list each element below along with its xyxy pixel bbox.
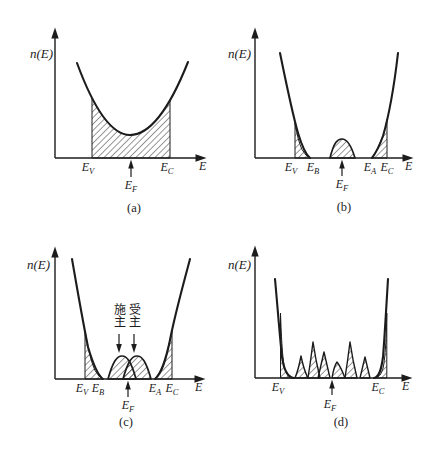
gap-state-spike [308,342,320,378]
tick-label-ec: EC [165,381,178,397]
panel-a: n(E) EV EC E EF (a) [0,0,220,227]
fermi-label: EF [324,397,337,413]
x-axis-label: E [195,380,202,395]
fermi-arrow-head-icon [329,380,335,389]
y-axis-arrow-icon [51,247,58,258]
donor-arrow-head-icon [116,344,122,353]
y-axis-label: n(E) [228,257,251,273]
panel-caption: (b) [337,200,352,215]
panel-d: n(E) EV EC E EF (d) [220,227,440,454]
fermi-label: EF [125,178,138,194]
gap-state-spike [318,352,330,378]
fermi-arrow-head-icon [128,160,134,169]
tick-label-ev: EV [272,380,285,396]
gap-state-spike [332,362,345,378]
gap-state-spike [360,357,370,378]
valence-band-curve [275,279,294,378]
fermi-arrow-head-icon [339,160,345,169]
hatched-region [92,98,170,158]
y-axis-arrow-icon [251,28,258,39]
hatched-valence-tail [85,331,103,379]
acceptor-annotation: 受主 [127,303,140,327]
fermi-label: EF [336,177,349,193]
y-axis-label: n(E) [30,46,53,62]
panel-caption: (a) [127,201,141,216]
tick-label-ec: EC [371,380,384,396]
panel-a-plot [0,0,220,227]
tick-label-ea: EA [364,160,377,176]
x-axis-label: E [402,379,409,394]
fermi-label: EF [122,398,135,414]
tick-label-ea: EA [149,381,162,397]
acceptor-arrow-head-icon [131,344,137,353]
tick-label-ev: EV [76,381,89,397]
tick-label-eb: EB [92,381,105,397]
tick-label-eb: EB [307,160,320,176]
tick-label-ev: EV [82,160,95,176]
tick-label-ec: EC [380,160,393,176]
y-axis-label: n(E) [228,46,251,62]
donor-annotation: 施主 [112,303,125,327]
tick-label-ec: EC [160,160,173,176]
gap-state-spike [345,342,357,378]
gap-state-spike [295,356,308,378]
panel-d-plot [220,227,440,454]
y-axis-arrow-icon [251,246,258,257]
x-axis-label: E [199,159,206,174]
gap-states-hump [330,139,355,158]
hatched-valence-tail [281,313,295,378]
x-axis-label: E [405,159,412,174]
panel-c: n(E) 施主 受主 EV EB EA EC E EF (c) [0,227,220,454]
panel-b: n(E) EV EB EA EC E EF (b) [220,0,440,227]
y-axis-arrow-icon [51,28,58,39]
tick-label-ev: EV [285,160,298,176]
y-axis-label: n(E) [27,257,50,273]
figure-density-of-states: n(E) EV EC E EF (a) n(E) EV [0,0,440,454]
panel-caption: (d) [334,415,349,430]
panel-b-plot [220,0,440,227]
panel-caption: (c) [119,415,133,430]
hatched-conduction-tail [372,119,387,158]
fermi-arrow-head-icon [125,381,131,390]
